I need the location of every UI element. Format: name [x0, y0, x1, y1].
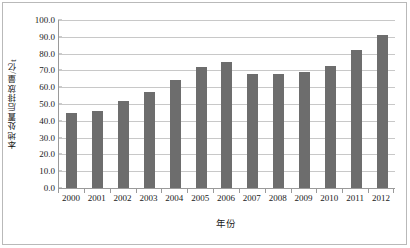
x-axis-tick-mark — [239, 189, 240, 193]
x-axis-tick-label: 2011 — [346, 194, 364, 203]
bar-slot — [266, 20, 292, 188]
bar[interactable] — [66, 113, 77, 188]
y-axis-tick-label: 50.0 — [39, 100, 55, 109]
y-axis-tick-label: 60.0 — [39, 83, 55, 92]
x-axis-tick-mark — [316, 189, 317, 193]
bar-slot — [369, 20, 395, 188]
x-axis-tick-label: 2004 — [165, 194, 183, 203]
bar[interactable] — [92, 111, 103, 188]
x-axis-slot: 2001 — [84, 189, 110, 211]
y-axis-tick-label: 40.0 — [39, 116, 55, 125]
bar[interactable] — [273, 74, 284, 188]
x-axis-tick-mark — [84, 189, 85, 193]
x-axis-tick-label: 2006 — [217, 194, 235, 203]
y-axis-tick-label: 20.0 — [39, 150, 55, 159]
bar[interactable] — [221, 62, 232, 188]
y-axis-tick-label: 80.0 — [39, 49, 55, 58]
bar[interactable] — [118, 101, 129, 188]
x-axis-slot: 2010 — [316, 189, 342, 211]
x-axis-tick-mark — [161, 189, 162, 193]
bar[interactable] — [299, 72, 310, 188]
x-axis-tick-mark — [291, 189, 292, 193]
y-axis-tick-label: 100.0 — [35, 16, 55, 25]
x-axis-tick-mark — [58, 189, 59, 193]
bar-slot — [162, 20, 188, 188]
x-axis-slot: 2011 — [342, 189, 368, 211]
x-axis-slot: 2002 — [110, 189, 136, 211]
x-axis-tick-mark — [265, 189, 266, 193]
bar-slot — [292, 20, 318, 188]
bar-slot — [188, 20, 214, 188]
y-axis-tick-label: 90.0 — [39, 32, 55, 41]
x-axis-tick-label: 2002 — [114, 194, 132, 203]
x-axis-title: 年份 — [58, 216, 394, 230]
bar[interactable] — [196, 67, 207, 188]
x-axis-tick-label: 2012 — [372, 194, 390, 203]
x-axis-tick-mark — [393, 189, 394, 193]
x-axis-slot: 2012 — [368, 189, 394, 211]
x-axis-tick-label: 2008 — [269, 194, 287, 203]
bar[interactable] — [144, 92, 155, 188]
x-axis-slot: 2009 — [291, 189, 317, 211]
bar[interactable] — [170, 80, 181, 188]
bar-slot — [111, 20, 137, 188]
x-axis-tick-mark — [213, 189, 214, 193]
y-axis-tick-labels: 0.010.020.030.040.050.060.070.080.090.01… — [20, 20, 58, 188]
x-axis-tick-mark — [368, 189, 369, 193]
x-axis-slot: 2000 — [58, 189, 84, 211]
x-axis-slot: 2004 — [161, 189, 187, 211]
bar-slot — [240, 20, 266, 188]
x-axis-tick-label: 2005 — [191, 194, 209, 203]
x-axis-tick-label: 2009 — [295, 194, 313, 203]
bar-chart: 本地处置后排放量/亿t 0.010.020.030.040.050.060.07… — [0, 0, 410, 248]
bars-group — [59, 20, 395, 188]
x-axis-tick-mark — [342, 189, 343, 193]
x-axis-slot: 2008 — [265, 189, 291, 211]
y-axis-tick-label: 0.0 — [44, 184, 55, 193]
x-axis-tick-label: 2000 — [62, 194, 80, 203]
bar[interactable] — [247, 74, 258, 188]
x-axis-tick-label: 2007 — [243, 194, 261, 203]
x-axis-tick-labels: 2000200120022003200420052006200720082009… — [58, 189, 394, 211]
x-axis-slot: 2006 — [213, 189, 239, 211]
x-axis-slot: 2005 — [187, 189, 213, 211]
x-axis-tick-label: 2003 — [139, 194, 157, 203]
bar-slot — [85, 20, 111, 188]
bar-slot — [343, 20, 369, 188]
bar[interactable] — [351, 50, 362, 188]
bar-slot — [137, 20, 163, 188]
x-axis-tick-mark — [187, 189, 188, 193]
x-axis-tick-label: 2010 — [320, 194, 338, 203]
x-axis-tick-mark — [136, 189, 137, 193]
bar-slot — [317, 20, 343, 188]
bar[interactable] — [325, 66, 336, 188]
bar-slot — [59, 20, 85, 188]
y-axis-tick-label: 70.0 — [39, 66, 55, 75]
y-axis-tick-label: 10.0 — [39, 167, 55, 176]
x-axis-slot: 2007 — [239, 189, 265, 211]
x-axis-tick-label: 2001 — [88, 194, 106, 203]
y-axis-tick-label: 30.0 — [39, 133, 55, 142]
bar[interactable] — [377, 35, 388, 188]
x-axis-slot: 2003 — [136, 189, 162, 211]
plot-area — [58, 20, 395, 189]
x-axis-tick-mark — [110, 189, 111, 193]
bar-slot — [214, 20, 240, 188]
